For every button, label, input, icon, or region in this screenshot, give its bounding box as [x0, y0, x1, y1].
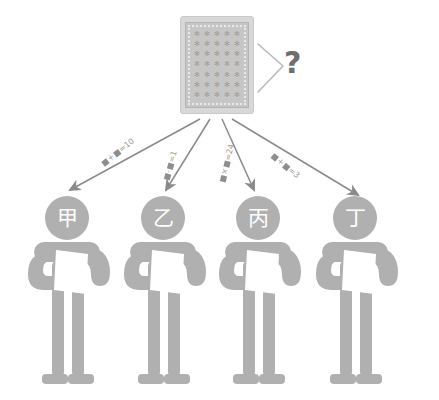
held-white-card — [150, 250, 184, 294]
avatar: 丙 — [236, 196, 280, 240]
deck-motif-icon: ✻ — [224, 92, 230, 99]
question-mark: ? — [284, 48, 301, 78]
person-label: 乙 — [153, 208, 174, 229]
deck-motif-icon: ✻ — [234, 82, 240, 89]
arrow-to-jia — [70, 119, 200, 190]
person-ding: 丁 — [300, 196, 410, 396]
deck-motif-icon: ✻ — [234, 61, 240, 68]
person-label: 丁 — [345, 208, 366, 229]
deck-motif-icon: ✻ — [204, 51, 210, 58]
deck-motif-icon: ✻ — [224, 31, 230, 38]
deck-motif-icon: ✻ — [214, 61, 220, 68]
person-label: 丙 — [248, 208, 269, 229]
deck-motif-icon: ✻ — [204, 31, 210, 38]
deck-motif-icon: ✻ — [194, 51, 200, 58]
deck-motif-icon: ✻ — [234, 72, 240, 79]
person-body — [203, 238, 313, 396]
person-yi: 乙 — [108, 196, 218, 396]
deck-motif-icon: ✻ — [234, 51, 240, 58]
face-down-card-deck: ✻ ✻ ✻ ✻ ✻ ✻ ✻ ✻ ✻ ✻ ✻ ✻ ✻ ✻ ✻ ✻ ✻ ✻ ✻ ✻ — [180, 16, 254, 114]
person-body — [108, 238, 218, 396]
deck-motif-icon: ✻ — [234, 92, 240, 99]
avatar: 乙 — [141, 196, 185, 240]
diagram-canvas: ✻ ✻ ✻ ✻ ✻ ✻ ✻ ✻ ✻ ✻ ✻ ✻ ✻ ✻ ✻ ✻ ✻ ✻ ✻ ✻ — [0, 0, 439, 400]
deck-motif-icon: ✻ — [204, 41, 210, 48]
avatar: 甲 — [45, 196, 89, 240]
hidden-value-square-icon — [164, 173, 171, 180]
deck-motif-icon: ✻ — [204, 92, 210, 99]
angle-bracket-right-icon — [258, 44, 283, 92]
deck-motif-icon: ✻ — [224, 51, 230, 58]
deck-motif-icon: ✻ — [194, 72, 200, 79]
deck-motif-icon: ✻ — [214, 92, 220, 99]
person-body — [300, 238, 410, 396]
avatar: 丁 — [333, 196, 377, 240]
hidden-value-square-icon — [223, 161, 230, 168]
person-jia: 甲 — [12, 196, 122, 396]
deck-motif-icon: ✻ — [194, 61, 200, 68]
deck-inner-border: ✻ ✻ ✻ ✻ ✻ ✻ ✻ ✻ ✻ ✻ ✻ ✻ ✻ ✻ ✻ ✻ ✻ ✻ ✻ ✻ — [185, 22, 249, 108]
deck-motif-icon: ✻ — [224, 61, 230, 68]
held-white-card — [54, 250, 88, 294]
hidden-value-square-icon — [167, 163, 174, 170]
deck-motif-icon: ✻ — [194, 31, 200, 38]
deck-motif-icon: ✻ — [204, 61, 210, 68]
deck-motif-icon: ✻ — [234, 31, 240, 38]
person-body — [12, 238, 122, 396]
deck-motif-grid: ✻ ✻ ✻ ✻ ✻ ✻ ✻ ✻ ✻ ✻ ✻ ✻ ✻ ✻ ✻ ✻ ✻ ✻ ✻ ✻ — [192, 29, 242, 101]
deck-motif-icon: ✻ — [234, 41, 240, 48]
deck-motif-icon: ✻ — [224, 82, 230, 89]
deck-motif-icon: ✻ — [194, 82, 200, 89]
deck-motif-icon: ✻ — [204, 82, 210, 89]
hidden-value-square-icon — [220, 175, 227, 182]
deck-motif-icon: ✻ — [194, 41, 200, 48]
deck-motif-icon: ✻ — [214, 72, 220, 79]
person-bing: 丙 — [203, 196, 313, 396]
deck-motif-icon: ✻ — [214, 82, 220, 89]
deck-motif-icon: ✻ — [214, 31, 220, 38]
person-label: 甲 — [57, 208, 78, 229]
deck-motif-icon: ✻ — [224, 72, 230, 79]
deck-motif-icon: ✻ — [224, 41, 230, 48]
deck-motif-icon: ✻ — [214, 51, 220, 58]
held-white-card — [245, 250, 279, 294]
held-white-card — [342, 250, 376, 294]
deck-motif-icon: ✻ — [214, 41, 220, 48]
deck-motif-icon: ✻ — [194, 92, 200, 99]
deck-motif-icon: ✻ — [204, 72, 210, 79]
